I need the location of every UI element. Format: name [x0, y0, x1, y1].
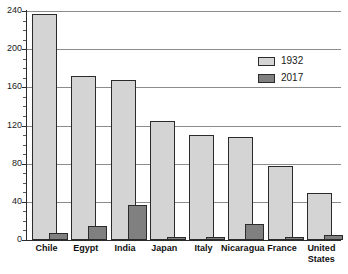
- bar-group: [189, 11, 222, 240]
- y-axis-minor-tick: [23, 68, 26, 69]
- legend-swatch-2017-icon: [258, 74, 275, 83]
- y-axis-tick-mark: [22, 126, 26, 127]
- bar-group: [32, 11, 65, 240]
- y-axis-minor-tick: [23, 192, 26, 193]
- legend-item[interactable]: 2017: [258, 71, 303, 85]
- y-axis-minor-tick: [23, 106, 26, 107]
- bar-2017[interactable]: [128, 205, 147, 240]
- bar-1932[interactable]: [307, 193, 332, 240]
- y-axis-minor-tick: [23, 230, 26, 231]
- y-axis-minor-tick: [23, 59, 26, 60]
- bar-2017[interactable]: [206, 237, 225, 240]
- bar-group: [307, 11, 340, 240]
- legend-label: 1932: [281, 56, 303, 66]
- legend-swatch-1932-icon: [258, 57, 275, 66]
- y-axis-minor-tick: [23, 173, 26, 174]
- y-axis-minor-tick: [23, 78, 26, 79]
- y-axis-tick-label: 200: [0, 44, 22, 53]
- y-axis-minor-tick: [23, 221, 26, 222]
- bar-group: [268, 11, 301, 240]
- bar-group: [71, 11, 104, 240]
- y-axis-tick-label: 160: [0, 82, 22, 91]
- y-axis-tick-mark: [22, 49, 26, 50]
- legend-item[interactable]: 1932: [258, 54, 303, 68]
- bar-2017[interactable]: [49, 233, 68, 240]
- y-axis-minor-tick: [23, 211, 26, 212]
- x-axis-line: [22, 240, 341, 241]
- bar-group: [228, 11, 261, 240]
- bar-2017[interactable]: [285, 237, 304, 240]
- bar-group: [150, 11, 183, 240]
- bar-chart: 04080120160200240 ChileEgyptIndiaJapanIt…: [0, 0, 348, 274]
- y-axis-tick-mark: [22, 87, 26, 88]
- bar-group: [111, 11, 144, 240]
- y-axis-minor-tick: [23, 183, 26, 184]
- y-axis-minor-tick: [23, 21, 26, 22]
- y-axis-tick-label: 120: [0, 121, 22, 130]
- bar-1932[interactable]: [268, 166, 293, 240]
- bar-1932[interactable]: [189, 135, 214, 240]
- bar-2017[interactable]: [167, 237, 186, 240]
- y-axis-tick-label: 40: [0, 197, 22, 206]
- y-axis-tick-label: 0: [0, 235, 22, 244]
- y-axis-minor-tick: [23, 30, 26, 31]
- y-axis-tick-label: 240: [0, 6, 22, 15]
- x-axis-tick-label: United States: [298, 243, 345, 264]
- bar-2017[interactable]: [245, 224, 264, 240]
- y-axis-tick-mark: [22, 240, 26, 241]
- y-axis-tick-label: 80: [0, 159, 22, 168]
- bar-2017[interactable]: [88, 226, 107, 240]
- y-axis-minor-tick: [23, 116, 26, 117]
- plot-area: [27, 11, 341, 240]
- bar-1932[interactable]: [71, 76, 96, 240]
- y-axis-minor-tick: [23, 145, 26, 146]
- y-axis-minor-tick: [23, 40, 26, 41]
- bar-1932[interactable]: [32, 14, 57, 240]
- y-axis-tick-mark: [22, 11, 26, 12]
- y-axis-minor-tick: [23, 97, 26, 98]
- y-axis-tick-mark: [22, 202, 26, 203]
- y-axis-tick-mark: [22, 164, 26, 165]
- legend-label: 2017: [281, 73, 303, 83]
- y-axis-minor-tick: [23, 135, 26, 136]
- bar-2017[interactable]: [324, 235, 343, 240]
- chart-legend: 1932 2017: [258, 54, 303, 88]
- y-axis-minor-tick: [23, 154, 26, 155]
- bar-1932[interactable]: [150, 121, 175, 240]
